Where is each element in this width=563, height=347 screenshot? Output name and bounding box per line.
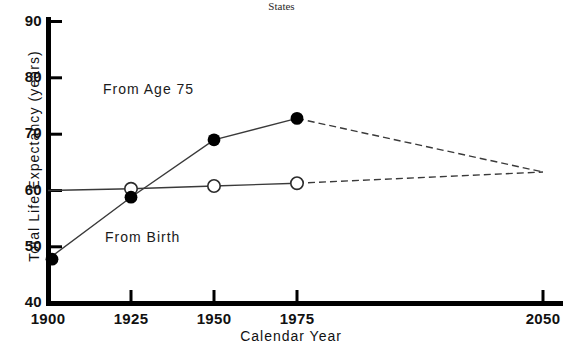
series-from-age-75-observed-line (48, 183, 297, 190)
x-tick-label-1975: 1975 (267, 310, 327, 327)
series-from-age-75-markers (125, 177, 303, 195)
series-from-age-75-projection-line (297, 172, 543, 183)
data-point-filled-1900 (46, 253, 59, 266)
data-point-filled-1925 (125, 191, 138, 204)
y-tick-label-40: 40 (14, 293, 42, 310)
data-point-filled-1950 (208, 133, 221, 146)
data-point-open-1950 (208, 180, 220, 192)
series-annotation-from-age-75: From Age 75 (103, 81, 194, 97)
x-axis-label: Calendar Year (201, 328, 381, 344)
data-point-open-1975 (291, 177, 303, 189)
life-expectancy-chart: States (0, 0, 563, 347)
x-tick-label-1925: 1925 (101, 310, 161, 327)
x-tick-label-1900: 1900 (18, 310, 78, 327)
series-from-birth-projection-line (297, 118, 543, 172)
plot-area (0, 0, 563, 347)
y-axis-ticks (51, 22, 62, 247)
x-tick-label-2050: 2050 (513, 310, 563, 327)
series-annotation-from-birth: From Birth (105, 229, 180, 245)
x-axis-ticks (131, 290, 543, 301)
data-point-filled-1975 (291, 112, 304, 125)
y-axis-label: Total Life Expectancy (years) (26, 26, 42, 286)
x-tick-label-1950: 1950 (184, 310, 244, 327)
